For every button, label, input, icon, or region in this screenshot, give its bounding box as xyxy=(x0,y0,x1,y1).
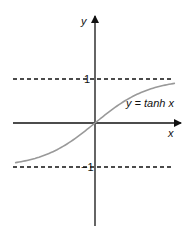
tick-label-neg1: −1 xyxy=(81,161,94,173)
x-axis-label: x xyxy=(167,127,174,139)
tick-label-1: 1 xyxy=(84,73,90,85)
tanh-graph: y x 1 −1 y = tanh x xyxy=(0,0,189,239)
curve-label: y = tanh x xyxy=(125,97,175,109)
y-axis-label: y xyxy=(80,15,88,27)
